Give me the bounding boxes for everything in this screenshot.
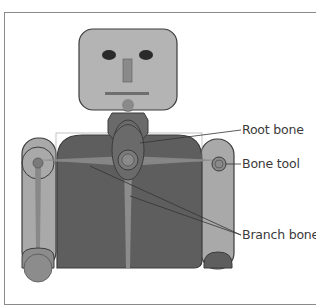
nose bbox=[123, 59, 132, 82]
callout-branch-bones: Branch bones bbox=[242, 227, 316, 242]
mouth bbox=[105, 92, 149, 95]
callout-bone-tool: Bone tool bbox=[242, 156, 300, 171]
callout-root-bone: Root bone bbox=[242, 122, 304, 137]
character-rig-illustration bbox=[0, 0, 316, 308]
head[interactable] bbox=[79, 29, 177, 111]
left-eye bbox=[102, 50, 116, 60]
right-eye bbox=[139, 50, 153, 60]
bone-tool-icon[interactable] bbox=[212, 157, 226, 171]
